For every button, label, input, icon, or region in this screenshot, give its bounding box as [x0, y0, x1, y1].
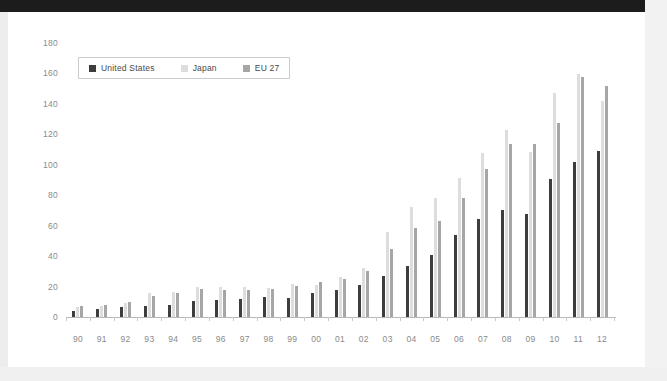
- legend-label-1: Japan: [193, 63, 217, 73]
- bar[interactable]: [291, 284, 294, 317]
- bar[interactable]: [358, 285, 361, 317]
- y-axis-tick-label: 0: [22, 312, 58, 322]
- bar[interactable]: [577, 74, 580, 317]
- y-axis-tick-label: 80: [22, 190, 58, 200]
- bar[interactable]: [128, 302, 131, 317]
- bar[interactable]: [311, 293, 314, 317]
- bar[interactable]: [152, 296, 155, 317]
- bar[interactable]: [605, 86, 608, 317]
- bar-group: [430, 43, 441, 317]
- bar[interactable]: [80, 306, 83, 317]
- bar[interactable]: [148, 293, 151, 317]
- legend-item-1[interactable]: Japan: [181, 63, 217, 73]
- bar[interactable]: [430, 255, 433, 317]
- bar[interactable]: [597, 151, 600, 317]
- y-axis-labels: 020406080100120140160180: [18, 12, 58, 367]
- bar[interactable]: [144, 306, 147, 317]
- page-edge-right: [645, 0, 667, 381]
- plot-area: [66, 43, 614, 317]
- x-axis-tick-label: 07: [478, 334, 488, 344]
- bar[interactable]: [295, 286, 298, 317]
- bar[interactable]: [390, 249, 393, 318]
- bar[interactable]: [315, 285, 318, 317]
- bar[interactable]: [247, 290, 250, 317]
- bar-group: [549, 43, 560, 317]
- bar[interactable]: [319, 282, 322, 317]
- bar[interactable]: [454, 235, 457, 317]
- bar[interactable]: [343, 279, 346, 317]
- bar[interactable]: [501, 210, 504, 317]
- bar[interactable]: [215, 300, 218, 317]
- bar-group: [144, 43, 155, 317]
- bar[interactable]: [386, 232, 389, 317]
- bar[interactable]: [414, 228, 417, 317]
- bar[interactable]: [485, 169, 488, 317]
- bar[interactable]: [76, 307, 79, 317]
- bar-group: [215, 43, 226, 317]
- x-axis-tick-mark: [614, 317, 615, 321]
- bar[interactable]: [96, 309, 99, 317]
- bar[interactable]: [271, 289, 274, 317]
- bar[interactable]: [481, 153, 484, 317]
- bar[interactable]: [223, 290, 226, 317]
- bar[interactable]: [529, 152, 532, 317]
- bar[interactable]: [104, 305, 107, 317]
- bar[interactable]: [366, 271, 369, 317]
- bar[interactable]: [172, 292, 175, 317]
- bar[interactable]: [525, 214, 528, 318]
- x-axis-tick-mark: [66, 317, 67, 321]
- bar[interactable]: [263, 297, 266, 317]
- bar[interactable]: [168, 305, 171, 317]
- bar[interactable]: [219, 287, 222, 317]
- bar[interactable]: [505, 130, 508, 317]
- bar[interactable]: [410, 207, 413, 317]
- bar-group: [382, 43, 393, 317]
- bar[interactable]: [196, 287, 199, 317]
- legend-item-0[interactable]: United States: [89, 63, 155, 73]
- bar[interactable]: [287, 298, 290, 317]
- bar[interactable]: [477, 219, 480, 317]
- bar[interactable]: [124, 303, 127, 317]
- x-axis-tick-mark: [257, 317, 258, 321]
- x-axis-tick-label: 98: [263, 334, 273, 344]
- x-axis-tick-label: 09: [526, 334, 536, 344]
- bar[interactable]: [438, 221, 441, 317]
- legend-item-2[interactable]: EU 27: [243, 63, 280, 73]
- bar[interactable]: [176, 293, 179, 317]
- bar[interactable]: [406, 266, 409, 317]
- bar[interactable]: [243, 287, 246, 317]
- x-axis-tick-label: 05: [430, 334, 440, 344]
- bar-group: [501, 43, 512, 317]
- bar[interactable]: [557, 123, 560, 317]
- bar-group: [406, 43, 417, 317]
- x-axis-tick-label: 93: [144, 334, 154, 344]
- x-axis-tick-mark: [137, 317, 138, 321]
- bar[interactable]: [553, 93, 556, 317]
- bar[interactable]: [382, 276, 385, 317]
- bar[interactable]: [581, 77, 584, 317]
- chart-legend: United States Japan EU 27: [78, 57, 290, 79]
- bar[interactable]: [462, 198, 465, 317]
- bar[interactable]: [549, 179, 552, 317]
- bar[interactable]: [509, 144, 512, 317]
- x-axis-tick-label: 04: [406, 334, 416, 344]
- bar-group: [263, 43, 274, 317]
- bar[interactable]: [533, 144, 536, 317]
- y-axis-tick-label: 40: [22, 251, 58, 261]
- bar-group: [525, 43, 536, 317]
- bar[interactable]: [362, 268, 365, 317]
- bar[interactable]: [573, 162, 576, 317]
- x-axis-tick-mark: [280, 317, 281, 321]
- bar[interactable]: [192, 301, 195, 317]
- bar[interactable]: [339, 277, 342, 317]
- bar[interactable]: [120, 307, 123, 317]
- x-axis-tick-label: 92: [121, 334, 131, 344]
- bar[interactable]: [458, 178, 461, 317]
- bar[interactable]: [267, 288, 270, 317]
- bar[interactable]: [100, 306, 103, 317]
- bar[interactable]: [434, 198, 437, 317]
- bar[interactable]: [601, 101, 604, 317]
- bar[interactable]: [200, 289, 203, 317]
- bar[interactable]: [239, 299, 242, 317]
- bar[interactable]: [335, 290, 338, 317]
